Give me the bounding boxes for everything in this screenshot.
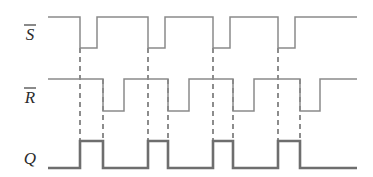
timing-diagram-canvas: S R Q <box>0 0 373 177</box>
signal-label-sbar: S <box>24 25 36 44</box>
q-label-text: Q <box>24 149 36 168</box>
signal-label-q: Q <box>24 149 36 168</box>
sbar-waveform <box>48 17 357 48</box>
q-waveform <box>48 141 357 168</box>
signal-labels: S R Q <box>24 25 36 168</box>
dashed-alignment-markers <box>80 48 300 141</box>
rbar-waveform <box>48 79 357 111</box>
timing-diagram-figure: S R Q <box>0 0 373 177</box>
signal-label-rbar: R <box>24 88 36 107</box>
rbar-label-text: R <box>24 88 36 107</box>
sbar-label-text: S <box>26 25 35 44</box>
